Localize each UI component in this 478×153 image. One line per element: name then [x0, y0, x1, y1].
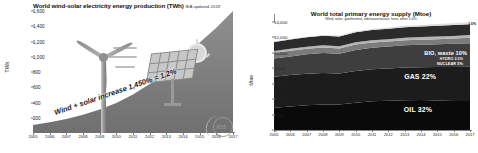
right-x-tick-label: 2012 [384, 132, 393, 137]
right-x-tick [307, 130, 308, 132]
left-y-tick [31, 117, 34, 118]
right-x-tick [421, 130, 422, 132]
right-x-tick [290, 130, 291, 132]
right-x-tick-label: 2005 [270, 132, 279, 137]
left-x-tick [100, 132, 101, 135]
right-x-tick-label: 2008 [319, 132, 328, 137]
left-y-tick [31, 72, 34, 73]
wind-streak-icon [109, 56, 137, 58]
right-x-tick-label: 2014 [417, 132, 426, 137]
band-label-hydro: HYDRO 2.5% [440, 57, 463, 61]
left-x-tick [166, 132, 167, 135]
left-x-tick [200, 132, 201, 135]
right-x-tick-label: 2010 [351, 132, 360, 137]
solar-post-icon [171, 79, 174, 105]
right-stacked-area-series [274, 22, 470, 130]
wind-turbine-icon [73, 25, 139, 133]
wind-streak-icon [115, 66, 135, 68]
left-chart-title: World wind-solar electricity energy prod… [33, 2, 237, 9]
right-y-tick [272, 37, 275, 38]
right-x-tick-label: 2006 [286, 132, 295, 137]
left-y-tick [31, 26, 34, 27]
right-x-tick [372, 130, 373, 132]
solar-foot-icon [164, 103, 181, 106]
left-x-tick-label: 2008 [78, 134, 87, 139]
right-x-tick-label: 2009 [335, 132, 344, 137]
left-x-tick [183, 132, 184, 135]
left-x-tick-label: 2016 [212, 134, 221, 139]
left-y-tick [31, 102, 34, 103]
left-x-tick [83, 132, 84, 135]
right-x-tick [274, 130, 275, 132]
left-y-tick [31, 87, 34, 88]
iea-logo-text: iea [216, 122, 226, 131]
right-x-axis-line [274, 130, 472, 131]
right-x-tick [388, 130, 389, 132]
left-x-tick-label: 2015 [195, 134, 204, 139]
left-x-tick [33, 132, 34, 135]
band-label-gas: GAS 22% [404, 73, 436, 80]
sun-ray-icon [196, 39, 198, 44]
right-y-tick [272, 68, 275, 69]
right-x-tick [454, 130, 455, 132]
right-x-tick-label: 2011 [368, 132, 377, 137]
right-y-tick [272, 114, 275, 115]
left-x-tick-label: 2006 [45, 134, 54, 139]
right-y-tick [272, 99, 275, 100]
right-y-tick [272, 22, 275, 23]
left-x-tick [150, 132, 151, 135]
band-label-nuclear: NUCLEAR 5% [437, 62, 463, 66]
two-chart-figure: World wind-solar electricity energy prod… [0, 0, 478, 153]
right-x-tick-label: 2007 [302, 132, 311, 137]
right-y-tick [272, 83, 275, 84]
left-x-tick-label: 2009 [95, 134, 104, 139]
turbine-hub-icon [99, 53, 108, 62]
right-chart-panel: World total primary energy supply (Mtoe)… [239, 0, 478, 153]
left-x-tick-label: 2017 [228, 134, 237, 139]
right-x-tick-label: 2015 [433, 132, 442, 137]
right-x-tick [323, 130, 324, 132]
right-x-tick-label: 2016 [449, 132, 458, 137]
left-y-tick [31, 41, 34, 42]
left-x-tick [216, 132, 217, 135]
left-y-tick [31, 56, 34, 57]
band-label-other-share: 1.6% [468, 22, 476, 26]
left-x-tick-label: 2014 [178, 134, 187, 139]
left-y-axis-label: TWh [4, 62, 10, 73]
right-x-tick [470, 130, 471, 132]
right-chart-subtitle: Wind, solar, geothermal, tide/wave/ocean… [264, 17, 478, 21]
left-x-tick [50, 132, 51, 135]
band-label-oil: OIL 32% [404, 106, 432, 113]
left-x-tick-label: 2012 [145, 134, 154, 139]
right-x-tick-label: 2013 [400, 132, 409, 137]
left-plot-area [33, 11, 233, 133]
left-chart-title-text: World wind-solar electricity energy prod… [33, 2, 184, 9]
left-x-tick [66, 132, 67, 135]
left-chart-source: IEA updated 2019 [185, 4, 220, 9]
band-label-bio-waste: BIO, waste 10% [424, 50, 467, 56]
right-plot-area: BIO, waste 10% HYDRO 2.5% NUCLEAR 5% GAS… [274, 22, 470, 130]
right-chart-title: World total primary energy supply (Mtoe) [264, 10, 478, 17]
left-x-tick [116, 132, 117, 135]
right-x-tick [356, 130, 357, 132]
left-y-tick [31, 11, 34, 12]
left-x-tick-label: 2007 [62, 134, 71, 139]
left-x-tick-label: 2010 [112, 134, 121, 139]
left-chart-panel: World wind-solar electricity energy prod… [0, 0, 239, 153]
right-x-tick [405, 130, 406, 132]
left-x-tick-label: 2005 [28, 134, 37, 139]
right-y-tick [272, 52, 275, 53]
left-x-tick-label: 2011 [129, 134, 138, 139]
left-x-tick [233, 132, 234, 135]
right-x-tick-label: 2017 [466, 132, 475, 137]
right-y-axis-label: Mtoe [249, 75, 254, 86]
left-x-tick-label: 2013 [162, 134, 171, 139]
left-x-tick [133, 132, 134, 135]
right-x-tick [339, 130, 340, 132]
right-x-tick [437, 130, 438, 132]
